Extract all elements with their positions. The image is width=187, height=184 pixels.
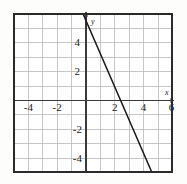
y-axis-label: y xyxy=(90,17,95,26)
y-tick-label: -2 xyxy=(73,123,82,135)
x-tick-label: -2 xyxy=(53,101,62,113)
x-tick-label: 4 xyxy=(141,101,147,113)
y-tick-label: -4 xyxy=(73,152,83,164)
y-tick-label: 2 xyxy=(75,65,81,77)
x-axis-label: x xyxy=(164,88,169,97)
x-tick-label: -4 xyxy=(24,101,34,113)
coordinate-plane: -4 -2 2 4 6 4 2 -2 -4 y x xyxy=(0,0,187,184)
graph-figure: -4 -2 2 4 6 4 2 -2 -4 y x xyxy=(0,0,187,184)
x-tick-label: 2 xyxy=(112,101,118,113)
y-tick-label: 4 xyxy=(75,36,81,48)
